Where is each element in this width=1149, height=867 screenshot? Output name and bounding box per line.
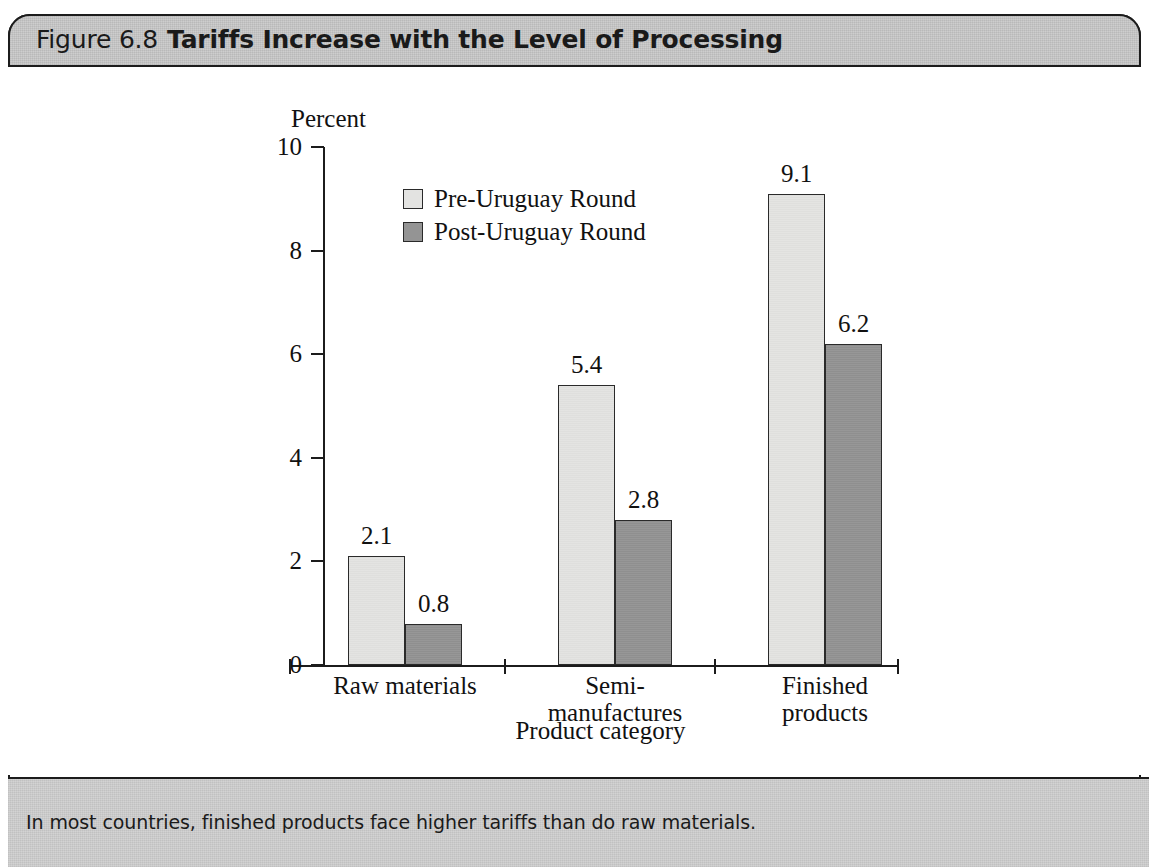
figure-caption-band: In most countries, finished products fac… xyxy=(8,777,1149,867)
x-axis-title-row: Product category xyxy=(8,717,1141,745)
figure-header-band: Figure 6.8Tariffs Increase with the Leve… xyxy=(8,14,1141,67)
page-title: Tariffs Increase with the Level of Proce… xyxy=(167,25,783,54)
y-axis-title: Percent xyxy=(291,105,366,133)
bar-pre-1[interactable] xyxy=(558,385,615,665)
x-axis-title: Product category xyxy=(515,717,685,745)
bar-value-label: 6.2 xyxy=(811,311,896,336)
bar-value-label: 5.4 xyxy=(544,352,629,377)
bar-value-label: 9.1 xyxy=(754,161,839,186)
legend-swatch-icon-pre xyxy=(403,189,423,209)
legend-item-pre-uruguay-round[interactable]: Pre-Uruguay Round xyxy=(403,182,646,215)
figure-caption: In most countries, finished products fac… xyxy=(26,811,756,833)
bar-post-0[interactable] xyxy=(405,624,462,665)
bar-value-label: 2.1 xyxy=(334,523,419,548)
legend-label-pre: Pre-Uruguay Round xyxy=(434,185,636,213)
legend-label-post: Post-Uruguay Round xyxy=(434,218,646,246)
bar-pre-2[interactable] xyxy=(768,194,825,665)
x-axis-line xyxy=(289,665,899,667)
bar-post-2[interactable] xyxy=(825,344,882,665)
figure-header-text: Figure 6.8Tariffs Increase with the Leve… xyxy=(36,25,783,54)
legend-item-post-uruguay-round[interactable]: Post-Uruguay Round xyxy=(403,215,646,248)
chart-plot-area: Percent 0246810 2.15.49.10.82.86.2 Raw m… xyxy=(8,67,1141,775)
figure-number: Figure 6.8 xyxy=(36,25,158,54)
bar-value-label: 0.8 xyxy=(391,591,476,616)
legend-swatch-icon-post xyxy=(403,222,423,242)
bar-value-label: 2.8 xyxy=(601,487,686,512)
figure-page: Figure 6.8Tariffs Increase with the Leve… xyxy=(0,0,1149,867)
chart-legend: Pre-Uruguay Round Post-Uruguay Round xyxy=(403,182,646,248)
bar-post-1[interactable] xyxy=(615,520,672,665)
